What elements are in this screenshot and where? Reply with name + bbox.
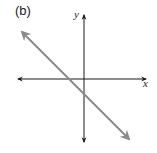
graph-figure: (b) y x bbox=[0, 0, 157, 153]
graphed-line bbox=[22, 32, 129, 139]
coordinate-plane bbox=[0, 0, 157, 153]
